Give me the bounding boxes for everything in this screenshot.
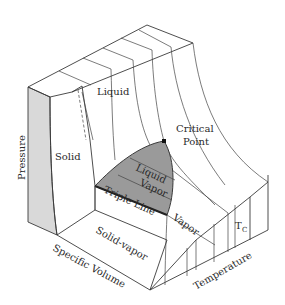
solid-liquid-boundary	[72, 86, 95, 186]
solid-front-face	[50, 97, 95, 235]
label-critical: Critical	[176, 123, 214, 134]
solid-liquid-dashed	[78, 90, 86, 140]
axis-label-pressure: Pressure	[16, 135, 27, 180]
critical-point-marker	[162, 139, 166, 143]
svg-text:T: T	[235, 220, 242, 231]
label-tc: T C	[235, 220, 247, 234]
label-point: Point	[183, 136, 209, 147]
axis-label-specific-volume: Specific Volume	[51, 242, 128, 290]
label-solid-vapor: Solid-vapor	[94, 224, 150, 263]
label-vapor: Vapor	[170, 211, 201, 238]
svg-text:C: C	[242, 226, 247, 234]
diagram-canvas: Liquid Solid Critical Point Liquid Vapor…	[0, 0, 285, 305]
solid-liquid-inner	[82, 92, 93, 140]
axis-label-temperature: Temperature	[192, 249, 254, 291]
top-isotherm-lines	[59, 30, 171, 85]
pvt-surface-diagram: Liquid Solid Critical Point Liquid Vapor…	[0, 0, 285, 305]
side-face	[28, 87, 57, 235]
vapor-boundary-line	[165, 215, 167, 285]
label-liquid: Liquid	[97, 86, 130, 97]
label-solid: Solid	[55, 151, 81, 162]
